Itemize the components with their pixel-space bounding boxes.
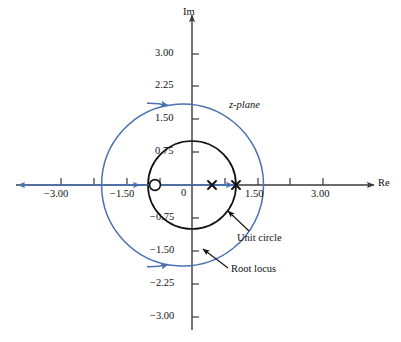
root-locus-plot — [0, 0, 401, 342]
y-tick-label: −0.75 — [150, 211, 174, 222]
unit-circle-leader-line — [228, 211, 249, 231]
x-tick-label: −3.00 — [44, 188, 68, 199]
axis-label-imaginary: Im — [183, 6, 195, 17]
x-tick-label: −1.50 — [110, 188, 134, 199]
root-locus-label: Root locus — [231, 263, 276, 274]
y-tick-label: 0.75 — [155, 145, 173, 156]
x-tick-label: 3.00 — [311, 188, 329, 199]
x-tick-label: 1.50 — [245, 188, 263, 199]
y-origin-label: 0 — [181, 187, 186, 198]
y-tick-label: −1.50 — [150, 244, 174, 255]
y-tick-label: −3.00 — [150, 310, 174, 321]
plane-label: z-plane — [229, 99, 260, 110]
figure-canvas: 3.00 2.25 1.50 0.75 0 −0.75 −1.50 −2.25 … — [0, 0, 401, 342]
axis-label-real: Re — [378, 177, 390, 188]
y-tick-label: −2.25 — [150, 277, 174, 288]
y-tick-label: 1.50 — [155, 112, 173, 123]
open-loop-zero-marker — [150, 180, 161, 191]
y-tick-label: 2.25 — [155, 79, 173, 90]
root-locus-leader-line — [203, 249, 228, 268]
y-tick-label: 3.00 — [155, 47, 173, 58]
unit-circle-label: Unit circle — [237, 232, 282, 243]
